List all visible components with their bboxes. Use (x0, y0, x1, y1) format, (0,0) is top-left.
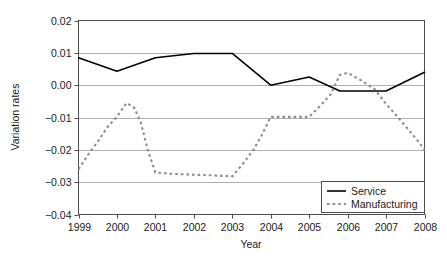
x-tick-label: 1999 (68, 221, 92, 233)
x-tick-label: 2007 (375, 221, 399, 233)
y-axis-title: Variation rates (9, 84, 21, 151)
x-tick-label: 2001 (144, 221, 168, 233)
y-tick-label: −0.04 (45, 209, 72, 221)
legend-label-manufacturing: Manufacturing (351, 198, 418, 210)
y-tick-label: 0.02 (51, 15, 72, 27)
x-tick-label: 2006 (337, 221, 361, 233)
legend: Service Manufacturing (322, 182, 425, 213)
x-tick-label: 2004 (260, 221, 284, 233)
x-axis-title: Year (240, 238, 262, 250)
y-tick-label: −0.01 (45, 112, 72, 124)
y-tick-label: −0.03 (45, 176, 72, 188)
y-tick-label: 0.01 (51, 47, 72, 59)
x-tick-label: 2003 (221, 221, 245, 233)
chart-container: 0.020.010.00−0.01−0.02−0.03−0.04 1999200… (0, 0, 447, 265)
x-tick-label: 2005 (298, 221, 322, 233)
x-tick-label: 2008 (414, 221, 438, 233)
variation-rates-line-chart: 0.020.010.00−0.01−0.02−0.03−0.04 1999200… (0, 0, 447, 265)
x-tick-label: 2002 (183, 221, 207, 233)
x-tick-label: 2000 (106, 221, 130, 233)
y-tick-label: 0.00 (51, 79, 72, 91)
y-tick-label: −0.02 (45, 144, 72, 156)
legend-label-service: Service (351, 185, 386, 197)
